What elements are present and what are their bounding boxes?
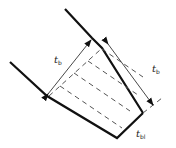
weld-diagram: tb tb tbl (0, 0, 176, 148)
left-dimension-arrow (48, 40, 91, 94)
left-dimension-label: tb (54, 54, 62, 66)
right-dimension-label: tb (152, 63, 160, 75)
left-plate-edge (10, 62, 143, 138)
right-dimension-arrow (108, 44, 153, 105)
dashed-construction-lines (49, 49, 162, 128)
bottom-dimension-label: tbl (136, 128, 146, 140)
